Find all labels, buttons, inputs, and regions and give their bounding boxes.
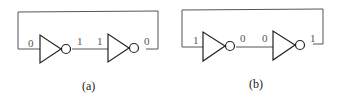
caption-a: (a) [82, 79, 95, 93]
inverter-b2 [273, 31, 305, 60]
inverter-a2 [108, 34, 139, 62]
label-b2-input: 0 [262, 32, 268, 44]
caption-b: (b) [249, 77, 263, 91]
feedback-wire-a [18, 11, 158, 49]
diagram-b: 1 0 0 1 (b) [182, 9, 323, 91]
label-b1-output: 0 [240, 32, 246, 44]
inverter-b1 [203, 32, 235, 61]
label-a2-output: 0 [144, 35, 150, 47]
inverter-loops-figure: 0 1 1 0 (a) 1 0 0 1 (b) [0, 0, 339, 98]
label-b1-input: 1 [193, 34, 199, 46]
label-a2-input: 1 [97, 35, 103, 47]
label-b2-output: 1 [310, 32, 316, 44]
inverter-a1 [40, 35, 71, 63]
label-a1-input: 0 [28, 37, 34, 49]
diagram-a: 0 1 1 0 (a) [18, 11, 158, 93]
label-a1-output: 1 [77, 35, 83, 47]
